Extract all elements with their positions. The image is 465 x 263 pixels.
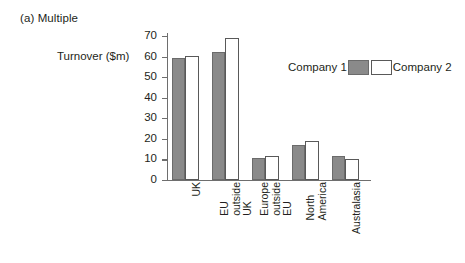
bar-chart-figure: (a) Multiple Turnover ($m) 0102030405060… [0,0,465,263]
legend-swatch-company-1 [348,60,369,75]
legend-label-company-1: Company 1 [288,61,347,73]
bar [305,141,319,180]
y-axis-tick-mark [162,98,167,99]
bar [292,145,306,180]
x-axis-tick-labels: UKEUoutsideUKEuropeoutsideEUNorthAmerica… [168,182,378,262]
y-axis-tick-mark [162,139,167,140]
y-axis-tick-mark [162,36,167,37]
x-axis-tick-label: NorthAmerica [305,182,328,221]
y-axis-tick-mark [162,77,167,78]
y-axis-tick-label: 30 [117,112,157,124]
bar [172,58,186,180]
legend-label-company-2: Company 2 [393,61,452,73]
bar [345,159,359,180]
bar [332,156,346,180]
y-axis-tick-label: 40 [117,92,157,104]
y-axis-tick-label: 10 [117,153,157,165]
bar [212,52,226,180]
y-axis-tick-mark [162,57,167,58]
chart-legend: Company 1 Company 2 [288,58,452,76]
y-axis-tick-mark [162,159,167,160]
y-axis-tick-label: 70 [117,30,157,42]
bar [252,158,266,180]
x-axis-tick-label: Australasia [351,182,363,234]
bar [185,56,199,180]
y-axis-tick-label: 50 [117,71,157,83]
x-axis-tick-label: EUoutsideUK [219,182,254,216]
legend-swatch-company-2 [371,60,392,75]
y-axis-tick-label: 60 [117,51,157,63]
y-axis-tick-mark [162,118,167,119]
y-axis-tick-label: 0 [117,174,157,186]
bar [265,156,279,180]
y-axis-tick-labels: 010203040506070 [117,0,157,263]
y-axis-tick-label: 20 [117,133,157,145]
y-axis-tick-mark [162,180,167,181]
x-axis-tick-label: EuropeoutsideEU [259,182,294,216]
bar [225,38,239,180]
figure-title: (a) Multiple [20,12,78,24]
x-axis-tick-label: UK [191,182,203,197]
